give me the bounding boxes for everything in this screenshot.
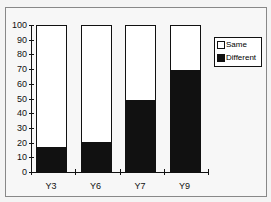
y-tick-mark xyxy=(29,25,34,26)
y-tick-label: 30 xyxy=(9,123,27,133)
y-tick-label: 70 xyxy=(9,64,27,74)
bar-y6 xyxy=(81,25,112,172)
x-tick-mark xyxy=(75,169,76,175)
legend-item-different: Different xyxy=(215,51,261,64)
y-tick-mark xyxy=(29,40,34,41)
y-tick-label: 50 xyxy=(9,94,27,104)
x-tick-mark xyxy=(164,169,165,175)
y-tick-label: 0 xyxy=(9,167,27,177)
legend-swatch-different xyxy=(217,54,225,62)
x-tick-mark xyxy=(31,169,32,175)
y-tick-mark xyxy=(29,54,34,55)
y-tick-label: 90 xyxy=(9,35,27,45)
x-tick-label: Y7 xyxy=(125,181,155,191)
y-tick-label: 80 xyxy=(9,49,27,59)
x-tick-label: Y6 xyxy=(81,181,111,191)
bar-y9 xyxy=(170,25,201,172)
bar-segment-different xyxy=(37,147,66,171)
x-tick-mark xyxy=(208,169,209,175)
y-tick-mark xyxy=(29,128,34,129)
y-tick-mark xyxy=(29,113,34,114)
y-tick-label: 40 xyxy=(9,108,27,118)
y-tick-mark xyxy=(29,84,34,85)
y-tick-mark xyxy=(29,157,34,158)
y-tick-label: 10 xyxy=(9,152,27,162)
bar-y7 xyxy=(125,25,156,172)
x-tick-mark xyxy=(120,169,121,175)
y-tick-mark xyxy=(29,143,34,144)
y-tick-mark xyxy=(29,69,34,70)
x-tick-label: Y3 xyxy=(36,181,66,191)
x-tick-label: Y9 xyxy=(170,181,200,191)
y-tick-mark xyxy=(29,99,34,100)
y-tick-label: 20 xyxy=(9,138,27,148)
bar-segment-different xyxy=(126,100,155,171)
bar-segment-different xyxy=(82,142,111,171)
y-tick-label: 100 xyxy=(9,20,27,30)
legend-item-same: Same xyxy=(215,38,261,51)
legend: Same Different xyxy=(214,37,262,67)
bar-segment-different xyxy=(171,70,200,171)
legend-swatch-same xyxy=(217,41,225,49)
bar-y3 xyxy=(36,25,67,172)
y-tick-label: 60 xyxy=(9,79,27,89)
